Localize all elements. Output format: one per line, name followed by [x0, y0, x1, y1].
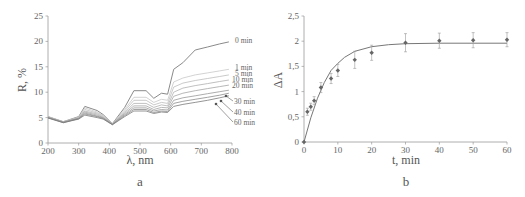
chart-b-x-tick-label: 20	[367, 145, 377, 155]
chart-b-ylabel: ΔA	[271, 71, 285, 88]
chart-a-x-tick-label: 800	[225, 146, 239, 156]
chart-a-ylabel: R, %	[15, 68, 29, 92]
chart-b-xlabel: t, min	[392, 153, 420, 167]
chart-b-data-point	[309, 105, 313, 109]
chart-b-data-point	[329, 76, 333, 80]
chart-b-x-tick-label: 10	[333, 145, 343, 155]
chart-a-x-tick-label: 200	[41, 146, 55, 156]
chart-a-y-tick-label: 10	[34, 87, 44, 97]
chart-a-curve-label: 20 min	[232, 81, 253, 90]
chart-b-y-tick-label: 1	[295, 87, 300, 97]
chart-a-y-tick-label: 20	[34, 36, 44, 46]
chart-a-line-1-min	[48, 69, 229, 123]
chart-b-x-tick-label: 50	[469, 145, 479, 155]
chart-a-y-tick-label: 0	[39, 138, 44, 148]
chart-a-y-tick-label: 5	[39, 113, 44, 123]
panel-a-label: a	[137, 174, 143, 189]
chart-b-data-point	[437, 38, 441, 42]
chart-b-y-tick-label: 2,5	[288, 11, 300, 21]
chart-a-x-tick-label: 700	[195, 146, 209, 156]
chart-b-y-tick-label: 2	[295, 36, 300, 46]
chart-a-curve-label: 40 min	[234, 108, 255, 117]
chart-b-data-point	[505, 37, 509, 41]
chart-b-y-tick-label: 1,5	[288, 61, 300, 71]
chart-b-x-tick-label: 0	[302, 145, 307, 155]
chart-b-data-point	[369, 51, 373, 55]
chart-a-x-tick-label: 600	[164, 146, 178, 156]
chart-b-series	[302, 33, 509, 145]
chart-b-data-point	[353, 58, 357, 62]
chart-b-fit-curve	[304, 43, 507, 142]
chart-b-x-tick-label: 60	[503, 145, 513, 155]
chart-a-y-tick-label: 25	[34, 11, 44, 21]
chart-a-x-tick-label: 400	[103, 146, 117, 156]
chart-a-annotation-arrow	[221, 101, 233, 112]
chart-a-curve-label: 60 min	[234, 118, 255, 127]
chart-a-curve-label: 30 min	[234, 97, 255, 106]
chart-a-line-0-min	[48, 42, 229, 124]
chart-b: 010203040506000,511,522,5 t, min ΔA b	[271, 11, 512, 189]
chart-b-data-point	[471, 38, 475, 42]
chart-a-xlabel: λ, nm	[126, 153, 154, 167]
chart-b-data-point	[336, 68, 340, 72]
chart-a-line-5-min	[48, 75, 229, 124]
chart-b-y-tick-label: 0,5	[288, 112, 300, 122]
figure-canvas: 2003004005006007008000510152025 0 min1 m…	[0, 0, 525, 197]
chart-b-axes: 010203040506000,511,522,5	[288, 11, 512, 155]
chart-a-y-tick-label: 15	[34, 62, 44, 72]
chart-b-x-tick-label: 40	[435, 145, 445, 155]
chart-a-annotation-arrow	[216, 104, 233, 122]
chart-a: 2003004005006007008000510152025 0 min1 m…	[15, 11, 255, 189]
chart-b-y-tick-label: 0	[295, 137, 300, 147]
chart-a-series	[48, 42, 229, 125]
chart-b-data-point	[302, 140, 306, 144]
chart-b-data-point	[305, 110, 309, 114]
chart-a-curve-label: 0 min	[235, 36, 253, 45]
chart-a-x-tick-label: 300	[72, 146, 86, 156]
chart-a-line-30-min	[48, 90, 229, 124]
panel-b-label: b	[403, 174, 410, 189]
